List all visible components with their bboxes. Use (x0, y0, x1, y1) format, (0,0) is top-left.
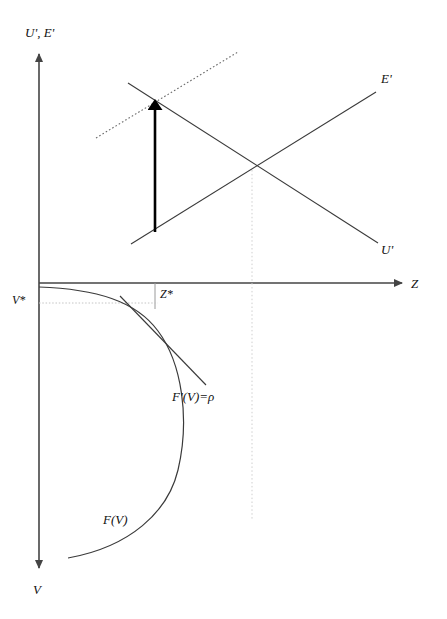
demand-curve-label: U' (381, 243, 393, 256)
v-star-label: V* (12, 294, 25, 306)
axis-group (39, 54, 402, 568)
U-prime-line (128, 83, 378, 243)
E-prime-line (131, 92, 376, 244)
E-prime-shifted-dotted-line (96, 52, 238, 138)
y-axis-bottom-label: V (33, 583, 41, 596)
tangent-line (120, 296, 206, 385)
guide-group (39, 170, 252, 520)
curve-line-group (96, 52, 378, 244)
y-axis-top-label: U', E' (25, 26, 54, 39)
supply-curve-label: E' (381, 72, 392, 85)
x-axis-label: Z (411, 277, 418, 290)
production-curve-label: F(V) (103, 513, 128, 526)
economics-diagram-canvas: U', E' V Z E' U' Z* V* F'(V)=ρ F(V) (0, 0, 447, 619)
z-star-label: Z* (160, 288, 173, 300)
tangent-label: F'(V)=ρ (172, 390, 214, 403)
diagram-svg (0, 0, 447, 619)
